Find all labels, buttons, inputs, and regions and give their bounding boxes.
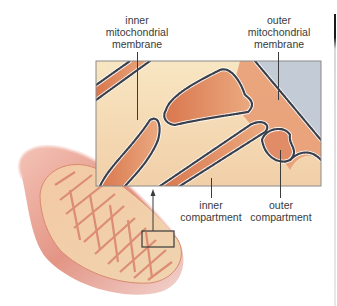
label-inner-compartment: inner compartment [180,199,241,223]
label-inner-mitochondrial-membrane: inner mitochondrial membrane [106,14,168,50]
arrow-head-icon [151,189,156,196]
leader-inner-compartment [211,178,212,198]
label-outer-compartment: outer compartment [250,199,311,223]
magnified-membrane-panel [96,61,321,186]
leader-outer-membrane [278,52,279,100]
leader-inner-membrane [137,52,138,120]
label-outer-mitochondrial-membrane: outer mitochondrial membrane [248,14,310,50]
leader-outer-compartment [280,150,281,198]
